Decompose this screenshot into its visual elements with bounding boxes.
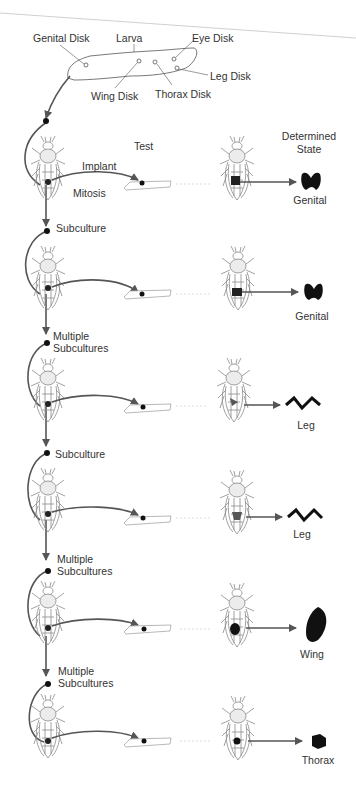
result-label-row6: Thorax <box>302 754 335 766</box>
transdetermination-diagram: Genital Disk Larva Eye Disk Leg Disk Win… <box>0 0 356 796</box>
thorax-disk-label: Thorax Disk <box>155 88 211 100</box>
eye-disk-label: Eye Disk <box>192 32 233 44</box>
genital-disk-label: Genital Disk <box>33 32 90 44</box>
transfer-label-row6-line2: Subcultures <box>58 677 113 689</box>
row-2 <box>31 246 323 310</box>
transfer-label-row6-line1: Multiple <box>58 665 94 677</box>
test-header: Test <box>134 140 153 152</box>
result-label-row2: Genital <box>295 310 328 322</box>
result-label-row1: Genital <box>293 194 326 206</box>
transfer-label-row5-line1: Multiple <box>57 553 93 565</box>
result-label-row4: Leg <box>293 528 311 540</box>
mitosis-label: Mitosis <box>73 187 106 199</box>
row-4 <box>31 468 322 534</box>
determined-state-header-line2: State <box>297 143 322 155</box>
result-label-row5: Wing <box>300 648 324 660</box>
row-5 <box>31 581 326 647</box>
implant-label: Implant <box>82 160 116 172</box>
larva-label: Larva <box>116 32 142 44</box>
determined-state-header-line1: Determined <box>282 130 336 142</box>
row-3 <box>31 358 320 422</box>
result-label-row3: Leg <box>297 419 315 431</box>
row-6 <box>31 694 326 760</box>
transfer-label-row2: Subculture <box>56 222 106 234</box>
transfer-label-row3-line1: Multiple <box>53 330 89 342</box>
diagram-canvas <box>0 0 356 796</box>
transfer-label-row5-line2: Subcultures <box>57 565 112 577</box>
wing-disk-label: Wing Disk <box>91 90 138 102</box>
transfer-label-row3-line2: Subcultures <box>53 342 108 354</box>
leg-disk-label: Leg Disk <box>210 70 251 82</box>
transfer-label-row4: Subculture <box>55 448 105 460</box>
larva-illustration <box>60 40 208 88</box>
